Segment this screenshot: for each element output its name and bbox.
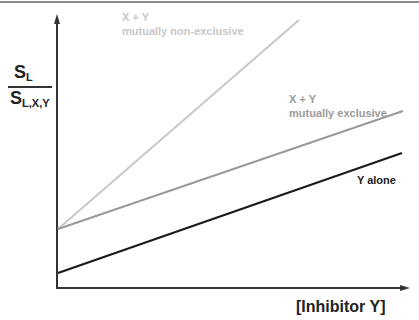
y-axis-arrow-icon: [54, 14, 60, 24]
y-label-numerator: SL: [14, 62, 33, 83]
label-y-alone: Y alone: [357, 173, 396, 187]
label-exclusive-line1: X + Y: [289, 92, 387, 106]
x-axis-label: [Inhibitor Y]: [296, 298, 385, 316]
label-exclusive: X + Y mutually exclusive: [289, 92, 387, 120]
line-nonexclusive: [58, 20, 299, 229]
y-label-denominator: SL,X,Y: [10, 88, 50, 109]
x-axis-arrow-icon: [400, 285, 410, 291]
label-nonexclusive-line2: mutually non-exclusive: [122, 24, 244, 38]
label-exclusive-line2: mutually exclusive: [289, 106, 387, 120]
label-nonexclusive-line1: X + Y: [122, 10, 244, 24]
plot-area: [0, 0, 419, 320]
label-nonexclusive: X + Y mutually non-exclusive: [122, 10, 244, 38]
